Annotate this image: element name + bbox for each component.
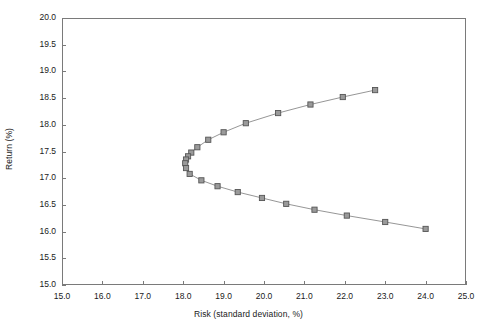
- y-tick-label: 16.0: [20, 226, 56, 236]
- y-tick-label: 18.0: [20, 119, 56, 129]
- y-tick-label: 19.5: [20, 39, 56, 49]
- y-tick-label: 19.0: [20, 65, 56, 75]
- efficient-frontier-chart: [0, 0, 497, 333]
- x-tick-label: 22.0: [325, 291, 365, 301]
- y-tick-label: 17.5: [20, 146, 56, 156]
- x-tick-label: 23.0: [365, 291, 405, 301]
- x-tick-label: 16.0: [82, 291, 122, 301]
- x-tick-label: 25.0: [446, 291, 486, 301]
- chart-figure: 15.015.516.016.517.017.518.018.519.019.5…: [0, 0, 497, 333]
- y-tick-label: 18.5: [20, 92, 56, 102]
- x-tick-label: 24.0: [406, 291, 446, 301]
- y-tick-label: 20.0: [20, 12, 56, 22]
- x-tick-label: 19.0: [204, 291, 244, 301]
- x-tick-label: 20.0: [244, 291, 284, 301]
- y-axis-title-wrapper: Return (%): [4, 94, 18, 204]
- plot-frame: [63, 19, 466, 285]
- y-tick-label: 17.0: [20, 172, 56, 182]
- y-axis-title: Return (%): [4, 94, 14, 204]
- x-axis-title: Risk (standard deviation, %): [0, 309, 497, 319]
- y-tick-label: 15.5: [20, 252, 56, 262]
- x-tick-label: 15.0: [42, 291, 82, 301]
- x-tick-label: 17.0: [123, 291, 163, 301]
- y-tick-label: 16.5: [20, 199, 56, 209]
- data-series-group: [183, 87, 429, 231]
- y-tick-label: 15.0: [20, 279, 56, 289]
- x-tick-label: 21.0: [284, 291, 324, 301]
- x-tick-label: 18.0: [163, 291, 203, 301]
